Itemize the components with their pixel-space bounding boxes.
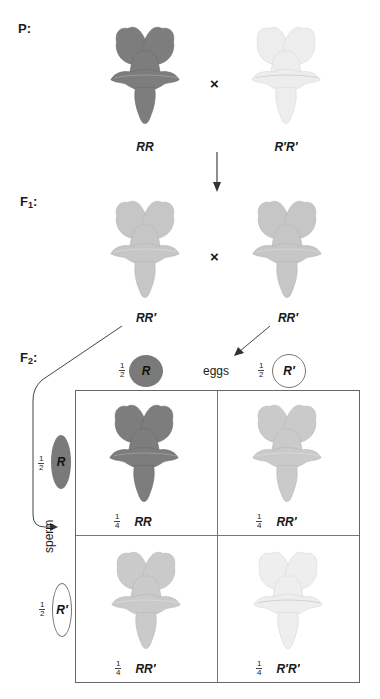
sperm-r-fraction: 12	[38, 455, 44, 472]
punnett-cell-label-r-prime-r-prime: 14 R′R′	[256, 660, 300, 677]
sperm-r-gamete: R	[51, 435, 71, 489]
cell-genotype: RR′	[135, 662, 155, 676]
sperm-r-prime-fraction: 12	[39, 601, 45, 618]
f2-generation-label: F2:	[20, 350, 37, 366]
flower-white-f2	[250, 547, 326, 655]
cell-fraction: 14	[256, 660, 262, 677]
punnett-cell-label-rr-prime-bottom: 14 RR′	[115, 660, 156, 677]
cell-genotype: R′R′	[276, 662, 299, 676]
egg-r-gamete: R	[129, 355, 163, 387]
flower-pink-f2-top-right	[249, 400, 325, 508]
sperm-r-prime-gamete: R′	[52, 583, 72, 637]
eggs-label: eggs	[203, 364, 229, 378]
punnett-horizontal-divider	[76, 535, 359, 536]
cell-fraction: 14	[115, 660, 121, 677]
cell-fraction: 14	[114, 513, 120, 530]
flower-pink-f2-bottom-left	[108, 547, 184, 655]
flower-red-f2-rr	[106, 400, 182, 508]
egg-r-fraction: 12	[119, 362, 125, 379]
cell-genotype: RR′	[276, 515, 296, 529]
punnett-vertical-divider	[217, 391, 218, 682]
punnett-cell-label-rr: 14 RR	[114, 513, 152, 530]
egg-r-prime-fraction: 12	[258, 362, 264, 379]
punnett-cell-label-rr-prime-top: 14 RR′	[256, 513, 297, 530]
egg-r-prime-gamete: R′	[272, 354, 306, 388]
cell-genotype: RR	[134, 515, 151, 529]
cell-fraction: 14	[256, 513, 262, 530]
sperm-label: sperm	[42, 513, 56, 553]
